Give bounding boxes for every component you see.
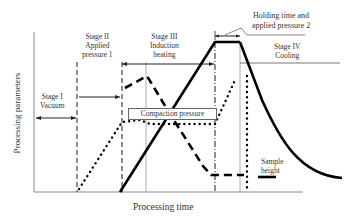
holding-line2: applied pressure 2 [252, 21, 310, 31]
arrow-head-icon [209, 62, 214, 66]
stage2-label: Stage II Applied pressure 1 [82, 32, 113, 59]
compaction-pressure-label: Compaction pressure [128, 108, 217, 120]
stage2-name: Stage II [82, 32, 113, 41]
stage3-desc2: heating [150, 50, 179, 59]
arrow-head-icon [115, 95, 120, 99]
stage4-label: Stage IV Cooling [274, 42, 300, 60]
stage2-desc1: Applied [82, 41, 113, 50]
stage1-label: Stage I Vacuum [40, 92, 65, 110]
sample-line1: Sample [261, 157, 284, 166]
y-axis-label: Processing parameters [12, 68, 22, 158]
x-axis-label: Processing time [133, 202, 193, 212]
stage3-label: Stage III Induction heating [150, 32, 179, 59]
holding-label: Holding time and applied pressure 2 [252, 11, 310, 31]
sample-line2: height [261, 166, 284, 175]
stage4-name: Stage IV [274, 42, 300, 51]
stage4-desc: Cooling [274, 51, 300, 60]
stage1-name: Stage I [40, 92, 65, 101]
stage3-desc1: Induction [150, 41, 179, 50]
stage2-desc2: pressure 1 [82, 50, 113, 59]
holding-line1: Holding time and [252, 11, 310, 21]
arrow-head-icon [71, 116, 76, 120]
arrow-head-icon [122, 62, 127, 66]
stage3-name: Stage III [150, 32, 179, 41]
cooling-curve [240, 42, 342, 178]
arrow-head-icon [236, 35, 240, 38]
stage1-desc: Vacuum [40, 101, 65, 110]
sample-height-label: Sample height [261, 157, 284, 175]
arrow-head-icon [215, 35, 219, 38]
arrow-head-icon [36, 116, 41, 120]
